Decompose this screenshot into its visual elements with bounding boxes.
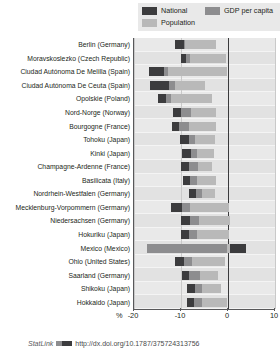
plot-inner bbox=[134, 38, 275, 309]
bar-group bbox=[134, 67, 275, 76]
x-axis-tick-label: 10 bbox=[270, 311, 278, 321]
y-axis-label: Berlin (Germany) bbox=[0, 40, 130, 49]
bar-group bbox=[134, 176, 275, 185]
chart-legend: National GDP per capita Population bbox=[138, 3, 280, 31]
bar-group bbox=[134, 122, 275, 131]
bar-group bbox=[134, 40, 275, 49]
regional-decomposition-bar-chart: National GDP per capita Population Berli… bbox=[0, 0, 280, 349]
legend-item-population: Population bbox=[142, 19, 195, 27]
bar-group bbox=[134, 149, 275, 158]
y-axis-label: Basilicata (Italy) bbox=[0, 176, 130, 185]
y-axis-label: Mexico (Mexico) bbox=[0, 244, 130, 253]
doi-link[interactable]: http://dx.doi.org/10.1787/375724313756 bbox=[75, 338, 199, 349]
legend-item-national: National bbox=[142, 7, 187, 15]
y-axis-label: Nord-Norge (Norway) bbox=[0, 108, 130, 117]
row-separator bbox=[134, 308, 275, 309]
bar-segment-national bbox=[183, 176, 191, 185]
y-axis-label: Nordrhein-Westfalen (Germany) bbox=[0, 189, 130, 198]
bar-group bbox=[134, 298, 275, 307]
bar-segment-national bbox=[230, 244, 246, 253]
y-axis-label: Tohoku (Japan) bbox=[0, 135, 130, 144]
bar-group bbox=[134, 54, 275, 63]
legend-label-national: National bbox=[161, 7, 187, 15]
bar-group bbox=[134, 284, 275, 293]
statlink-barcode-icon bbox=[56, 341, 72, 346]
bar-segment-national bbox=[173, 108, 181, 117]
y-axis-label: Niedersachsen (Germany) bbox=[0, 216, 130, 225]
bar-segment-national bbox=[175, 40, 184, 49]
y-axis-category-labels: Berlin (Germany)Moravskoslezko (Czech Re… bbox=[0, 38, 130, 309]
y-axis-label: Ciudad Autónoma De Ceuta (Spain) bbox=[0, 81, 130, 90]
bar-group bbox=[134, 203, 275, 212]
bar-segment-national bbox=[187, 284, 195, 293]
zero-reference-line bbox=[228, 38, 229, 309]
bar-segment-national bbox=[175, 257, 184, 266]
bar-segment-national bbox=[149, 67, 164, 76]
legend-swatch-population bbox=[142, 19, 157, 27]
gridline--20 bbox=[134, 38, 135, 309]
bar-segment-national bbox=[171, 203, 183, 212]
y-axis-label: Bourgogne (France) bbox=[0, 122, 130, 131]
legend-item-gdp-per-capita: GDP per capita bbox=[205, 7, 273, 15]
x-axis-tick-label: -10 bbox=[175, 311, 186, 321]
bar-group bbox=[134, 244, 275, 253]
y-axis-label: Opolskie (Poland) bbox=[0, 94, 130, 103]
bar-group bbox=[134, 94, 275, 103]
statlink-footer: StatLink http://dx.doi.org/10.1787/37572… bbox=[0, 338, 280, 349]
bar-group bbox=[134, 81, 275, 90]
statlink-label: StatLink bbox=[28, 338, 53, 349]
bar-segment-national bbox=[150, 81, 169, 90]
bar-group bbox=[134, 230, 275, 239]
bar-group bbox=[134, 189, 275, 198]
x-axis-tick-label: -20 bbox=[128, 311, 139, 321]
bar-segment-national bbox=[181, 216, 191, 225]
bar-group bbox=[134, 216, 275, 225]
bar-segment-national bbox=[181, 54, 186, 63]
bar-group bbox=[134, 271, 275, 280]
legend-swatch-national bbox=[142, 7, 157, 15]
y-axis-label: Ciudad Autónoma De Melilla (Spain) bbox=[0, 67, 130, 76]
legend-label-population: Population bbox=[161, 19, 195, 27]
bar-group bbox=[134, 135, 275, 144]
bar-group bbox=[134, 257, 275, 266]
bar-segment-national bbox=[182, 149, 191, 158]
y-axis-label: Champagne-Ardenne (France) bbox=[0, 162, 130, 171]
bar-segment-national bbox=[180, 135, 189, 144]
bar-segment-national bbox=[181, 162, 189, 171]
y-axis-label: Shikoku (Japan) bbox=[0, 284, 130, 293]
x-axis-unit-label: % bbox=[116, 311, 123, 321]
gridline-10 bbox=[275, 38, 276, 309]
y-axis-label: Ohio (United States) bbox=[0, 257, 130, 266]
bar-segment-national bbox=[187, 298, 195, 307]
bar-segment-gdp-per-capita bbox=[147, 244, 227, 253]
x-axis-tick-label: 0 bbox=[225, 311, 229, 321]
plot-area bbox=[133, 38, 275, 310]
y-axis-label: Mecklenburg-Vorpommern (Germany) bbox=[0, 203, 130, 212]
y-axis-label: Moravskoslezko (Czech Republic) bbox=[0, 54, 130, 63]
bar-segment-national bbox=[181, 230, 189, 239]
y-axis-label: Hokkaido (Japan) bbox=[0, 298, 130, 307]
bar-group bbox=[134, 162, 275, 171]
y-axis-label: Hokuriku (Japan) bbox=[0, 230, 130, 239]
x-axis: % -20-10010 bbox=[100, 311, 280, 325]
bar-segment-national bbox=[158, 94, 166, 103]
gridline--10 bbox=[181, 38, 182, 309]
bar-segment-national bbox=[189, 189, 196, 198]
y-axis-label: Saarland (Germany) bbox=[0, 271, 130, 280]
legend-swatch-gdp-per-capita bbox=[205, 7, 220, 15]
bar-segment-national bbox=[172, 122, 180, 131]
legend-label-gdp-per-capita: GDP per capita bbox=[224, 7, 273, 15]
y-axis-label: Kinki (Japan) bbox=[0, 149, 130, 158]
bar-segment-national bbox=[182, 271, 190, 280]
bar-group bbox=[134, 108, 275, 117]
